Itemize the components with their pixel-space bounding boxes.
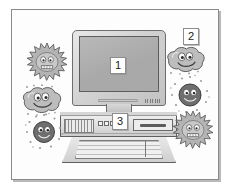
tower-vent-grille [64,119,94,133]
spiky-virus-icon [172,110,214,152]
tower-seam-line [62,133,175,134]
callout-number-3: 3 [112,113,128,130]
monitor-brand-label [145,99,161,103]
tower-button-2 [104,121,109,126]
germ-blob-top-right [163,44,207,75]
blob-amoeba-icon [163,44,207,75]
germ-round-bottom-left [24,112,64,152]
tower-button-1 [98,121,103,126]
spiky-virus-icon [26,42,68,84]
callout-number-1: 1 [110,57,126,74]
callout-number-2: 2 [183,28,199,45]
germ-spiky-top-left [26,42,68,84]
keyboard-numpad-divider [145,141,161,157]
round-dotted-germ-icon [24,112,64,152]
illustration-canvas: 1 2 3 [0,0,231,191]
keyboard [62,136,176,163]
monitor-chin-slot [98,99,138,102]
tower-disk-drive-slot [133,119,173,131]
germ-spiky-bottom-right [172,110,214,152]
